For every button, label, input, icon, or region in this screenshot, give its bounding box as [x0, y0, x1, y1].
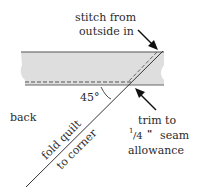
back-label: back	[10, 111, 37, 124]
binding-strip	[21, 52, 164, 85]
stitch-label-line1: stitch from	[75, 11, 137, 24]
binding-corner-diagram: stitch from outside in 45° back fold qui…	[0, 0, 198, 195]
angle-label: 45°	[80, 91, 100, 104]
stitch-arrow-icon	[138, 30, 158, 50]
seam-word: seam	[160, 129, 190, 142]
trim-label-line3: allowance	[128, 144, 184, 157]
trim-label-line1: trim to	[138, 114, 177, 127]
inch-mark: "	[147, 128, 152, 139]
angle-arc	[101, 87, 111, 99]
stitch-label-line2: outside in	[79, 25, 134, 38]
trim-label-line2: 1 /4 " seam	[129, 127, 190, 142]
trim-arrow-icon	[135, 88, 156, 110]
fraction-denominator: /4	[133, 130, 143, 141]
